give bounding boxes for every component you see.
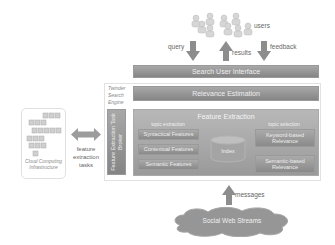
tasks-line3: tasks: [70, 161, 102, 169]
feedback-arrow-icon: [257, 41, 271, 61]
feature-extraction-tasks-label: feature extraction tasks: [70, 145, 102, 169]
semantic-features-box: Semantic Features: [138, 159, 199, 170]
relevance-estimation-bar: Relevance Estimation: [133, 86, 319, 101]
feature-extraction-box: Feature Extraction topic extraction Synt…: [133, 109, 319, 176]
users-label: users: [254, 22, 270, 29]
contextual-features-box: Contextual Features: [138, 144, 199, 155]
feature-extraction-title: Feature Extraction: [134, 113, 318, 120]
index-label: Index: [210, 148, 246, 154]
topic-extraction-label: topic extraction: [138, 121, 198, 127]
results-arrow-icon: [219, 41, 233, 61]
query-label: query: [168, 43, 184, 50]
topic-selection-label: topic selection: [254, 121, 314, 127]
engine-title: Twinder Search Engine: [108, 85, 125, 106]
semantic-based-relevance-box: Semantic-based Relevance: [255, 155, 315, 173]
messages-arrow-icon: [222, 185, 236, 205]
tasks-line2: extraction: [70, 153, 102, 161]
engine-title-line2: Search: [108, 92, 125, 99]
tasks-line1: feature: [70, 145, 102, 153]
engine-title-line3: Engine: [108, 99, 125, 106]
index-database: Index: [210, 135, 246, 163]
search-user-interface-bar: Search User Interface: [133, 65, 319, 78]
syntactical-features-box: Syntactical Features: [138, 129, 199, 140]
users-icon: [188, 12, 258, 38]
users-group: [188, 12, 258, 38]
keyword-based-relevance-box: Keyword-based Relevance: [255, 129, 315, 147]
results-label: results: [232, 49, 251, 56]
feedback-label: feedback: [270, 43, 296, 50]
server-cubes-icon: [23, 111, 66, 161]
cloud-infra-label: Cloud Computing Infrastructure: [22, 159, 65, 171]
task-broker-bar: Feature Extraction Task Broker: [107, 109, 126, 175]
double-arrow-icon: [71, 128, 101, 141]
cloud-computing-infrastructure: Cloud Computing Infrastructure: [21, 108, 66, 179]
engine-title-line1: Twinder: [108, 85, 125, 92]
query-arrow-icon: [186, 41, 200, 61]
messages-label: messages: [235, 191, 265, 198]
social-web-streams-label: Social Web Streams: [172, 217, 292, 224]
task-broker-label: Feature Extraction Task Broker: [110, 110, 124, 174]
